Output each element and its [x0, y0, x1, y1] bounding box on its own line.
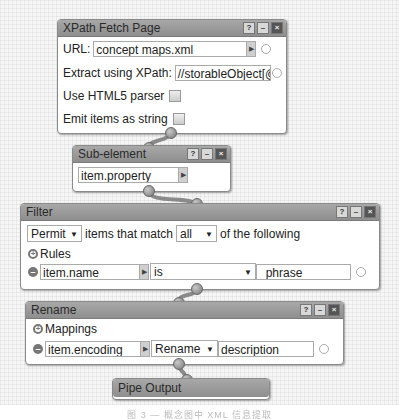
module-title: Filter — [26, 205, 53, 219]
filter-match-suffix: of the following — [220, 227, 300, 241]
pipe-output-titlebar[interactable]: Pipe Output — [113, 379, 269, 397]
xpath-input[interactable]: //storableObject[@s — [175, 65, 271, 81]
field-arrow-icon[interactable]: ▶ — [139, 265, 148, 279]
rule-field-input[interactable]: item.name ▶ — [40, 264, 149, 280]
xpath-label: Extract using XPath: — [63, 66, 172, 80]
help-icon[interactable]: ? — [187, 148, 199, 160]
add-mapping-icon[interactable]: + — [33, 324, 43, 334]
html5-checkbox[interactable] — [169, 90, 181, 102]
mapping-action-select[interactable]: Rename ▼ — [151, 340, 218, 357]
mapping-value-input[interactable]: description — [218, 341, 314, 357]
xpath-terminal[interactable] — [272, 68, 282, 78]
dropdown-icon: ▼ — [206, 341, 214, 358]
remove-mapping-icon[interactable]: – — [33, 344, 43, 354]
fetch-output-node[interactable] — [165, 127, 177, 139]
rename-module[interactable]: Rename ? – × + Mappings – item.encoding … — [25, 301, 344, 365]
mapping-field-input[interactable]: item.encoding ▶ — [45, 341, 150, 357]
url-input[interactable]: concept maps.xml ▶ — [93, 41, 256, 57]
mapping-value: description — [221, 343, 279, 357]
rule-value: _phrase — [259, 266, 302, 280]
minimize-icon[interactable]: – — [257, 22, 269, 34]
subelement-output-node[interactable] — [143, 185, 155, 197]
module-title: Rename — [31, 303, 76, 317]
filter-titlebar[interactable]: Filter ? – × — [21, 204, 379, 221]
rule-operator-value: is — [154, 265, 163, 279]
rule-operator-select[interactable]: is ▼ — [150, 263, 256, 280]
rule-value-terminal[interactable] — [356, 267, 366, 277]
help-icon[interactable]: ? — [336, 206, 348, 218]
rules-label: Rules — [40, 247, 71, 261]
figure-caption: 图 3 — 概念图中 XML 信息提取 — [0, 408, 399, 420]
emit-string-checkbox[interactable] — [173, 113, 185, 125]
close-icon[interactable]: × — [215, 148, 227, 160]
pipe-output-module[interactable]: Pipe Output — [112, 378, 270, 400]
filter-module[interactable]: Filter ? – × Permit ▼ items that match a… — [20, 203, 380, 290]
close-icon[interactable]: × — [364, 206, 376, 218]
dropdown-icon: ▼ — [205, 226, 213, 243]
module-title: XPath Fetch Page — [63, 21, 160, 35]
dropdown-icon: ▼ — [70, 226, 78, 243]
html5-label: Use HTML5 parser — [63, 89, 164, 103]
url-terminal[interactable] — [261, 44, 271, 54]
mapping-value-terminal[interactable] — [319, 344, 329, 354]
emit-string-label: Emit items as string — [63, 112, 168, 126]
mapping-action-value: Rename — [155, 342, 200, 356]
remove-rule-icon[interactable]: – — [28, 267, 38, 277]
module-title: Sub-element — [78, 147, 146, 161]
rule-field-value: item.name — [43, 266, 99, 280]
minimize-icon[interactable]: – — [201, 148, 213, 160]
url-value: concept maps.xml — [96, 43, 193, 57]
filter-mode-text: items that match — [85, 227, 173, 241]
filter-mode-value: Permit — [31, 227, 66, 241]
xpath-value: //storableObject[@s — [178, 67, 271, 81]
field-arrow-icon[interactable]: ▶ — [246, 42, 255, 56]
xpath-fetch-titlebar[interactable]: XPath Fetch Page ? – × — [58, 20, 286, 37]
field-arrow-icon[interactable]: ▶ — [140, 342, 149, 356]
minimize-icon[interactable]: – — [314, 304, 326, 316]
mapping-field-value: item.encoding — [48, 343, 123, 357]
help-icon[interactable]: ? — [243, 22, 255, 34]
field-arrow-icon[interactable]: ▶ — [178, 168, 187, 182]
filter-match-select[interactable]: all ▼ — [176, 225, 217, 242]
filter-mode-select[interactable]: Permit ▼ — [27, 225, 82, 242]
subelement-value: item.property — [81, 169, 151, 183]
filter-match-value: all — [180, 227, 192, 241]
subelement-input[interactable]: item.property ▶ — [78, 167, 188, 183]
close-icon[interactable]: × — [271, 22, 283, 34]
help-icon[interactable]: ? — [300, 304, 312, 316]
url-label: URL: — [63, 42, 90, 56]
subelement-titlebar[interactable]: Sub-element ? – × — [73, 146, 230, 163]
rule-value-input[interactable]: _phrase — [256, 264, 351, 280]
rename-titlebar[interactable]: Rename ? – × — [26, 302, 343, 319]
mappings-label: Mappings — [45, 322, 97, 336]
rename-output-node[interactable] — [173, 358, 185, 370]
add-rule-icon[interactable]: + — [28, 249, 38, 259]
module-title: Pipe Output — [118, 381, 181, 395]
minimize-icon[interactable]: – — [350, 206, 362, 218]
xpath-fetch-module[interactable]: XPath Fetch Page ? – × URL: concept maps… — [57, 19, 287, 134]
filter-output-node[interactable] — [191, 283, 203, 295]
close-icon[interactable]: × — [328, 304, 340, 316]
dropdown-icon: ▼ — [244, 264, 252, 281]
